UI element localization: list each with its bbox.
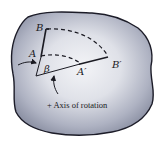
rotation-diagram: B A β A′ B′ + Axis of rotation <box>0 0 166 141</box>
label-beta: β <box>43 63 50 74</box>
label-b: B <box>35 22 43 33</box>
label-b-prime: B′ <box>111 59 122 70</box>
label-a: A <box>28 48 36 59</box>
label-a-prime: A′ <box>76 66 87 77</box>
axis-of-rotation-caption: + Axis of rotation <box>47 100 108 110</box>
